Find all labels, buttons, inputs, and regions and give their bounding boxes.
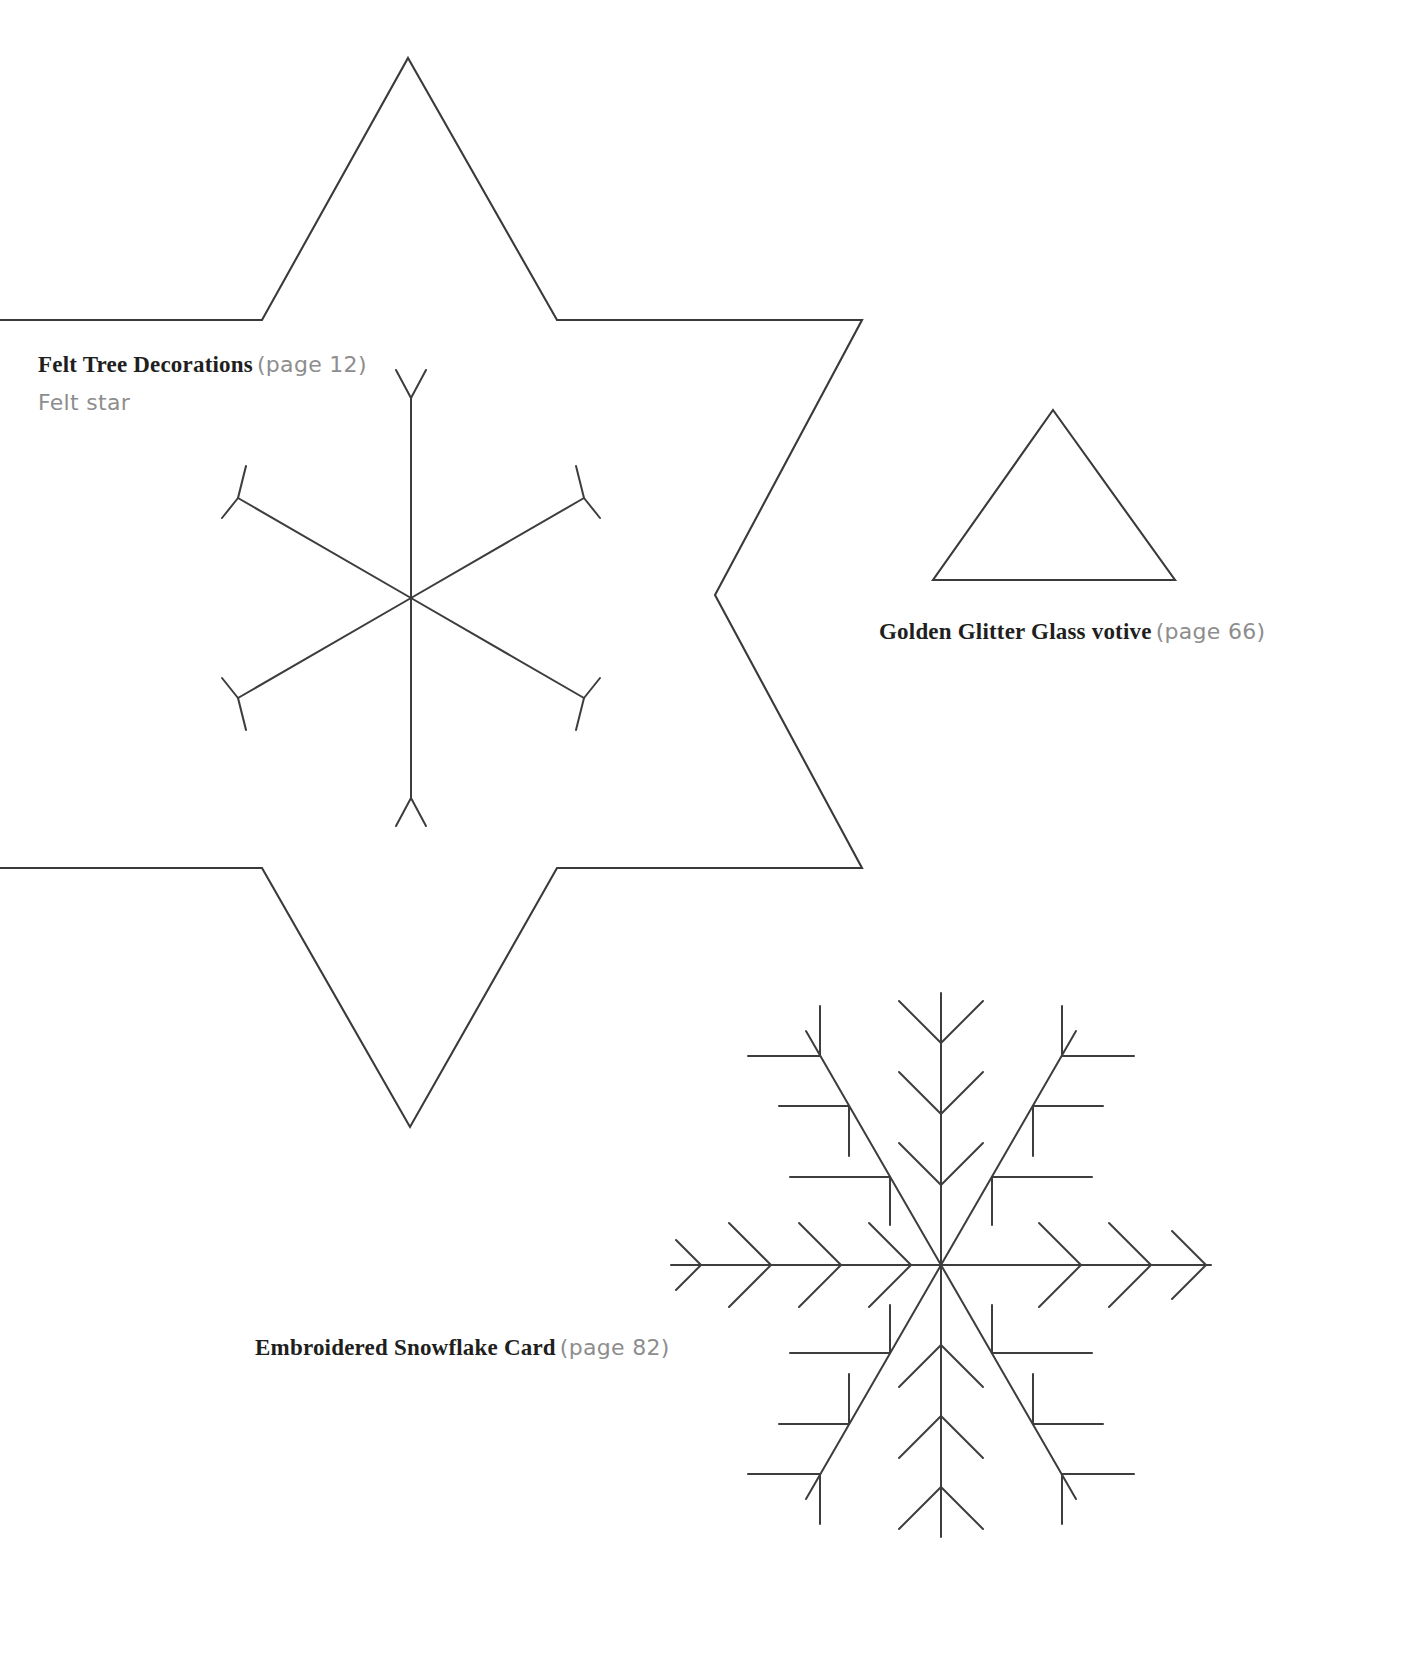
felt-star-outline	[0, 58, 862, 1127]
snowflake-arm-upper-left	[748, 1006, 941, 1265]
snowflake-arm-lower-left	[748, 1265, 941, 1524]
felt-tree-page-ref: (page 12)	[257, 352, 367, 377]
snowflake-card-title: Embroidered Snowflake Card	[255, 1335, 556, 1360]
snowflake-arm-right	[941, 1223, 1211, 1307]
template-artwork: .ln { fill: none; stroke: #3a3a3a; strok…	[0, 0, 1407, 1657]
votive-page-ref: (page 66)	[1156, 619, 1266, 644]
snowflake-arm-down	[899, 1265, 983, 1537]
votive-title: Golden Glitter Glass votive	[879, 619, 1152, 644]
label-golden-glitter-glass-votive: Golden Glitter Glass votive (page 66)	[879, 618, 1265, 647]
template-sheet-page: .ln { fill: none; stroke: #3a3a3a; strok…	[0, 0, 1407, 1657]
votive-triangle	[933, 410, 1175, 580]
snowflake-card-page-ref: (page 82)	[560, 1335, 670, 1360]
snowflake-arm-left	[671, 1223, 941, 1307]
snowflake-arm-upper-right	[941, 1006, 1134, 1265]
snowflake-arm-up	[899, 993, 983, 1265]
felt-tree-subtitle: Felt star	[38, 389, 367, 417]
simple-snowflake	[222, 370, 600, 826]
label-felt-tree-decorations: Felt Tree Decorations (page 12) Felt sta…	[38, 351, 367, 416]
felt-tree-title: Felt Tree Decorations	[38, 352, 253, 377]
embroidered-snowflake	[671, 993, 1211, 1537]
label-embroidered-snowflake-card: Embroidered Snowflake Card (page 82)	[255, 1334, 670, 1363]
snowflake-arm-lower-right	[941, 1265, 1134, 1524]
